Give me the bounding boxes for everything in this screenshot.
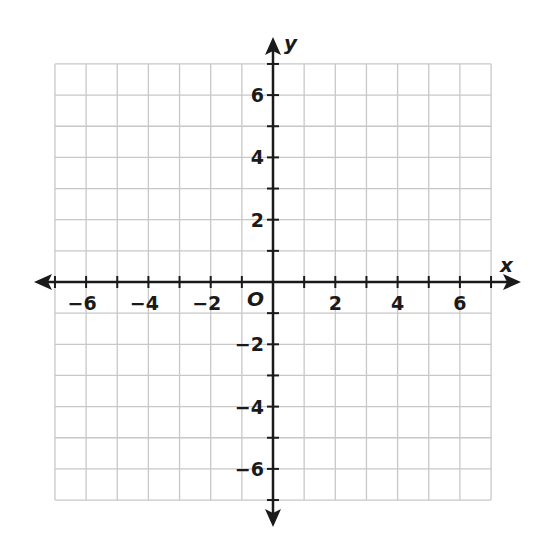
x-tick-label: 2 — [329, 292, 342, 314]
x-tick-label: −6 — [68, 292, 97, 314]
x-tick-label: 6 — [453, 292, 466, 314]
y-tick-label: −2 — [235, 333, 264, 355]
x-tick-label: −2 — [192, 292, 221, 314]
coordinate-plane: x y O −6−4−2246642−2−4−6 — [0, 0, 543, 560]
y-tick-label: −6 — [235, 458, 264, 480]
tick-labels: x y O −6−4−2246642−2−4−6 — [68, 31, 514, 480]
y-tick-label: 4 — [251, 146, 264, 168]
axes — [34, 37, 521, 527]
origin-label: O — [247, 287, 264, 311]
y-axis-label: y — [284, 31, 298, 55]
y-tick-label: 6 — [251, 84, 264, 106]
y-tick-label: −4 — [235, 396, 264, 418]
x-axis-label: x — [499, 253, 514, 277]
x-tick-label: −4 — [130, 292, 159, 314]
y-tick-label: 2 — [251, 209, 264, 231]
x-tick-label: 4 — [391, 292, 404, 314]
